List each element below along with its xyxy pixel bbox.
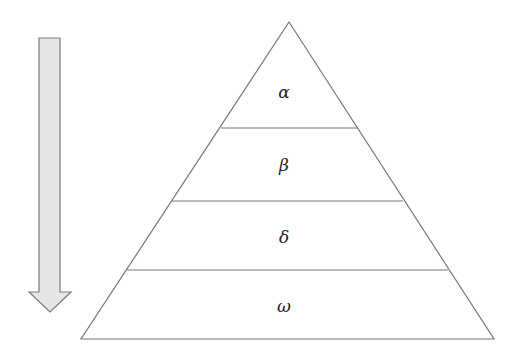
level-label-delta: δ [279, 227, 289, 247]
down-arrow-icon [29, 38, 71, 312]
level-label-omega: ω [277, 296, 291, 316]
level-label-beta: β [278, 155, 289, 175]
pyramid-diagram: α β δ ω [0, 0, 524, 356]
level-label-alpha: α [278, 82, 290, 102]
pyramid-outline [81, 22, 494, 339]
